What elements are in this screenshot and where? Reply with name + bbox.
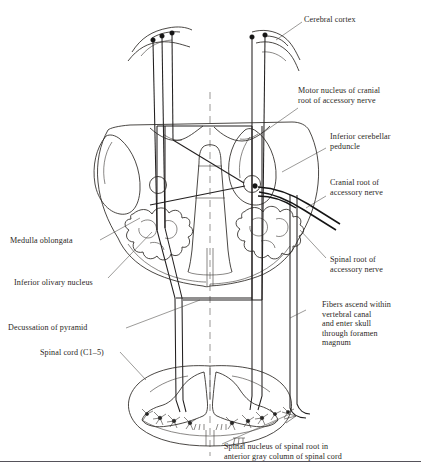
accessory-nerve-diagram: Cerebral cortex Motor nucleus of cranial… (0, 0, 421, 468)
inferior-olivary-nucleus-right (236, 206, 304, 259)
leader-decussation (126, 300, 200, 328)
spinal-root-fiber (258, 195, 310, 418)
label-cerebral-cortex: Cerebral cortex (304, 15, 356, 25)
cortical-neuron-left-2 (160, 34, 165, 228)
cortical-neuron-left-3 (170, 31, 175, 140)
label-medulla-oblongata: Medulla oblongata (10, 236, 73, 246)
label-inferior-olivary-nucleus: Inferior olivary nucleus (14, 278, 93, 288)
inferior-olivary-nucleus-left (125, 208, 193, 260)
corticospinal-tract-frame (157, 126, 262, 302)
label-motor-nucleus: Motor nucleus of cranial root of accesso… (298, 86, 380, 105)
medulla-oblongata-outline (97, 122, 318, 287)
leader-spinal-nucleus (222, 414, 290, 444)
label-cranial-root: Cranial root of accessory nerve (330, 178, 383, 197)
cranial-root-fibers (258, 187, 340, 230)
label-decussation-of-pyramid: Decussation of pyramid (8, 323, 88, 333)
cerebral-cortex-right (252, 30, 300, 71)
diagram-canvas (0, 0, 421, 468)
bottom-rule (0, 461, 421, 462)
leader-motor-nucleus (264, 108, 298, 132)
label-inferior-cerebellar-peduncle: Inferior cerebellar peduncle (330, 132, 391, 151)
leader-spinal-cord (120, 352, 146, 380)
label-fibers-ascend: Fibers ascend within vertebral canal and… (322, 300, 391, 348)
leader-spinal-root (300, 230, 326, 258)
cortical-neuron-right-2 (262, 33, 267, 300)
cerebral-cortex-left (128, 27, 192, 61)
leader-olivary (108, 232, 152, 278)
leader-lines (100, 22, 326, 444)
decussation-of-pyramid (157, 228, 262, 412)
spinal-motor-neurons-left (142, 409, 196, 430)
label-spinal-nucleus-caption: Spinal nucleus of spinal root in anterio… (224, 442, 342, 461)
leader-fibers-ascend (290, 310, 306, 318)
cortical-neuron-left-1 (151, 38, 157, 230)
leader-medulla (100, 218, 140, 240)
label-spinal-cord: Spinal cord (C1–5) (40, 348, 104, 358)
label-spinal-root: Spinal root of accessory nerve (330, 255, 383, 274)
leader-cerebral-cortex (276, 22, 302, 40)
leader-peduncle (282, 148, 326, 172)
